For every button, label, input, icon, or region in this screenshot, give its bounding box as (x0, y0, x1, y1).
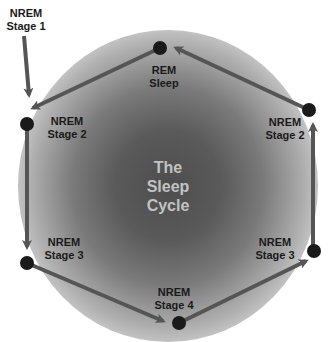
label-line: Stage 3 (41, 249, 87, 262)
label-line: NREM (44, 115, 90, 128)
node-rem-sleep (153, 41, 167, 55)
node-stage2-left (20, 117, 34, 131)
arrow-rem-to-stage2-left (33, 48, 160, 108)
label-line: REM (142, 64, 186, 77)
label-rem-sleep: REM Sleep (142, 64, 186, 90)
label-line: NREM (4, 7, 48, 20)
title-line: Sleep (118, 177, 218, 196)
label-nrem-stage-3-left: NREM Stage 3 (41, 236, 87, 262)
label-line: NREM (41, 236, 87, 249)
label-line: NREM (262, 116, 308, 129)
label-nrem-stage-2-left: NREM Stage 2 (44, 115, 90, 141)
arrow-stage2-to-rem (176, 48, 309, 110)
label-line: NREM (252, 236, 298, 249)
label-nrem-stage-3-right: NREM Stage 3 (252, 236, 298, 262)
arrow-stage3-to-stage4 (27, 263, 163, 321)
node-stage4 (172, 316, 186, 330)
arrow-stage1-to-stage2 (24, 36, 29, 95)
node-stage3-left (20, 256, 34, 270)
node-stage3-right (307, 244, 321, 258)
label-line: Sleep (142, 77, 186, 90)
label-line: Stage 2 (262, 129, 308, 142)
arrow-stage4-to-stage3-right (179, 261, 306, 323)
label-line: Stage 1 (4, 20, 48, 33)
label-line: Stage 4 (151, 299, 197, 312)
title-line: Cycle (118, 196, 218, 215)
label-nrem-stage-4: NREM Stage 4 (151, 286, 197, 312)
label-line: Stage 2 (44, 128, 90, 141)
title-line: The (118, 158, 218, 177)
label-nrem-stage-1: NREM Stage 1 (4, 7, 48, 33)
diagram-title: The Sleep Cycle (118, 158, 218, 215)
node-stage2-right (302, 103, 316, 117)
label-nrem-stage-2-right: NREM Stage 2 (262, 116, 308, 142)
label-line: Stage 3 (252, 249, 298, 262)
label-line: NREM (151, 286, 197, 299)
